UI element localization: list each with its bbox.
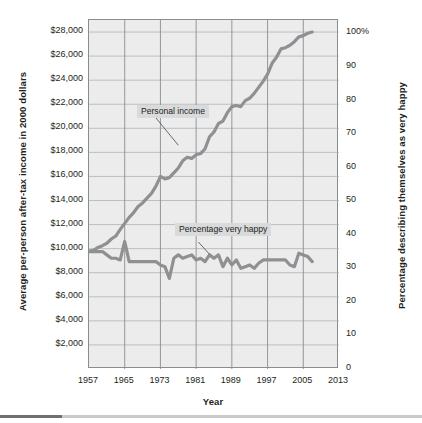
annotation-percentage-very-happy: Percentage very happy [175, 223, 271, 236]
right-tick-label: 80 [346, 94, 380, 104]
right-tick-label: 100% [346, 26, 380, 36]
gridlines [89, 20, 339, 369]
left-tick-label: $20,000 [25, 121, 83, 131]
left-tick-label: $8,000 [25, 266, 83, 276]
right-tick-label: 30 [346, 261, 380, 271]
right-tick-label: 20 [346, 295, 380, 305]
data-series [89, 32, 312, 278]
plot-area [88, 19, 338, 368]
left-tick-label: $28,000 [25, 25, 83, 35]
left-tick-label: $10,000 [25, 242, 83, 252]
left-tick-label: $2,000 [25, 338, 83, 348]
right-tick-label: 70 [346, 127, 380, 137]
left-tick-label: $26,000 [25, 49, 83, 59]
x-axis-title: Year [88, 396, 338, 407]
chart-figure: Average per-person after-tax income in 2… [0, 0, 422, 423]
left-tick-label: $6,000 [25, 290, 83, 300]
left-tick-label: $12,000 [25, 218, 83, 228]
right-tick-label: 0 [346, 362, 380, 372]
left-tick-label: $4,000 [25, 314, 83, 324]
annotation-personal-income: Personal income [137, 105, 209, 118]
left-tick-label: $22,000 [25, 97, 83, 107]
right-tick-label: 60 [346, 161, 380, 171]
footer-rule-accent [0, 415, 62, 418]
right-tick-label: 10 [346, 328, 380, 338]
plot-svg [89, 20, 339, 369]
right-tick-label: 40 [346, 228, 380, 238]
right-tick-label: 50 [346, 194, 380, 204]
footer-rule [0, 415, 422, 418]
x-tick-label: 2013 [316, 375, 360, 385]
left-tick-label: $24,000 [25, 73, 83, 83]
right-axis-title: Percentage describing themselves as very… [396, 46, 407, 346]
left-tick-label: $16,000 [25, 169, 83, 179]
right-tick-label: 90 [346, 60, 380, 70]
left-tick-label: $14,000 [25, 194, 83, 204]
left-tick-label: $18,000 [25, 145, 83, 155]
